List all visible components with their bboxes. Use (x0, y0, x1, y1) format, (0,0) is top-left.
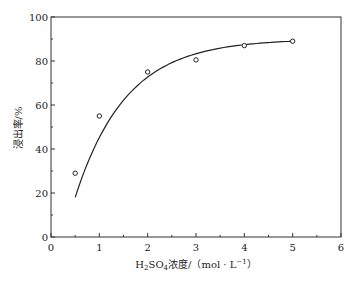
axis-ticks: 0123456020406080100 (29, 12, 344, 253)
y-tick-label: 40 (35, 144, 48, 155)
y-tick-label: 100 (29, 12, 48, 23)
data-point-marker (194, 58, 198, 62)
leaching-rate-chart: 0123456020406080100 浸出率/% H2SO4浓度/（mol ·… (0, 0, 360, 282)
fit-line (75, 41, 293, 197)
data-point-marker (290, 39, 294, 43)
plot-box (51, 17, 341, 237)
data-points (73, 39, 295, 175)
y-axis-title: 浸出率/% (12, 107, 24, 150)
x-tick-label: 6 (338, 242, 344, 253)
x-tick-label: 5 (289, 242, 295, 253)
x-tick-label: 0 (48, 242, 54, 253)
y-tick-label: 20 (35, 188, 48, 199)
x-tick-label: 2 (144, 242, 150, 253)
data-point-marker (97, 114, 101, 118)
x-tick-label: 3 (193, 242, 199, 253)
y-tick-label: 0 (42, 232, 48, 243)
fit-curve (75, 41, 293, 197)
x-axis-title: H2SO4浓度/（mol · L−1） (135, 258, 256, 272)
plot-frame (51, 17, 341, 237)
data-point-marker (73, 171, 77, 175)
data-point-marker (145, 70, 149, 74)
y-tick-label: 60 (35, 100, 48, 111)
x-tick-label: 4 (241, 242, 247, 253)
y-tick-label: 80 (35, 56, 48, 67)
x-tick-label: 1 (96, 242, 102, 253)
data-point-marker (242, 43, 246, 47)
